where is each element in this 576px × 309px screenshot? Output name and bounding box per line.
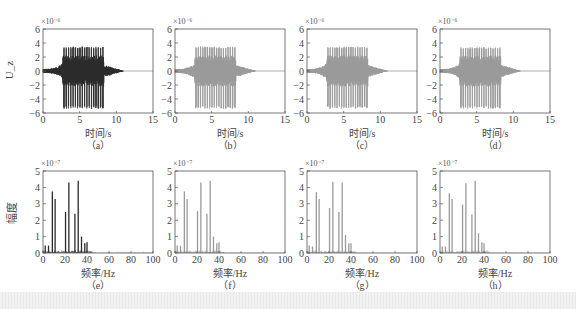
y-tick-label: 6 (432, 24, 437, 35)
chart-panel-a: 051015−6−4−20246×10⁻⁶ (43, 29, 153, 113)
y-tick-label: 4 (35, 38, 40, 49)
y-tick-label: 1 (299, 231, 304, 242)
y-tick-label: 1 (167, 231, 172, 242)
y-tick-label: −4 (293, 94, 304, 105)
x-tick-label: 80 (126, 254, 136, 265)
y-tick-label: 3 (432, 198, 437, 209)
y-exponent-label: ×10⁻⁷ (41, 159, 61, 168)
y-tick-label: 5 (35, 166, 40, 177)
y-tick-label: 2 (299, 215, 304, 226)
x-tick-label: 15 (412, 114, 422, 125)
y-tick-label: −4 (426, 94, 437, 105)
x-tick-label: 0 (305, 254, 310, 265)
y-tick-label: 2 (432, 52, 437, 63)
y-exponent-label: ×10⁻⁷ (438, 159, 458, 168)
chart-panel-e: 020406080100012345×10⁻⁷ (43, 171, 153, 253)
y-tick-label: 3 (299, 198, 304, 209)
x-tick-label: 60 (368, 254, 378, 265)
x-tick-label: 20 (457, 254, 467, 265)
chart-panel-h: 020406080100012345×10⁻⁷ (440, 171, 550, 253)
chart-panel-f: 020406080100012345×10⁻⁷ (175, 171, 285, 253)
y-tick-label: 0 (299, 66, 304, 77)
y-tick-label: 5 (167, 166, 172, 177)
x-tick-label: 0 (305, 114, 310, 125)
x-tick-label: 100 (278, 254, 293, 265)
y-axis-label: 幅度 (3, 202, 19, 224)
y-tick-label: 0 (432, 66, 437, 77)
x-tick-label: 40 (82, 254, 92, 265)
x-tick-label: 80 (523, 254, 533, 265)
panel-caption: （d） (465, 137, 525, 152)
y-tick-label: 3 (167, 198, 172, 209)
y-tick-label: 6 (299, 24, 304, 35)
x-tick-label: 5 (209, 114, 214, 125)
x-tick-label: 15 (280, 114, 290, 125)
y-tick-label: 0 (167, 66, 172, 77)
y-exponent-label: ×10⁻⁷ (173, 159, 193, 168)
y-tick-label: −6 (293, 108, 304, 119)
x-tick-label: 60 (104, 254, 114, 265)
y-tick-label: 6 (35, 24, 40, 35)
y-tick-label: 3 (35, 198, 40, 209)
panel-caption: （b） (200, 137, 260, 152)
panel-caption: （a） (68, 137, 128, 152)
x-tick-label: 15 (545, 114, 555, 125)
x-tick-label: 10 (508, 114, 518, 125)
panel-caption: （c） (332, 137, 392, 152)
y-exponent-label: ×10⁻⁷ (305, 159, 325, 168)
y-tick-label: 0 (35, 248, 40, 259)
y-tick-label: 1 (35, 231, 40, 242)
x-tick-label: 5 (341, 114, 346, 125)
x-tick-label: 60 (501, 254, 511, 265)
y-tick-label: 0 (432, 248, 437, 259)
x-tick-label: 60 (236, 254, 246, 265)
x-tick-label: 0 (41, 114, 46, 125)
x-tick-label: 40 (214, 254, 224, 265)
y-exponent-label: ×10⁻⁶ (173, 17, 193, 26)
y-axis-label: U_z (3, 61, 15, 79)
x-tick-label: 10 (111, 114, 121, 125)
x-tick-label: 0 (438, 254, 443, 265)
x-tick-label: 0 (438, 114, 443, 125)
x-tick-label: 80 (258, 254, 268, 265)
y-tick-label: −2 (426, 80, 437, 91)
y-tick-label: 4 (432, 38, 437, 49)
panel-caption: （e） (68, 277, 128, 292)
x-tick-label: 10 (375, 114, 385, 125)
y-tick-label: 2 (299, 52, 304, 63)
x-tick-label: 100 (543, 254, 558, 265)
panel-caption: （h） (465, 277, 525, 292)
y-tick-label: −6 (426, 108, 437, 119)
x-tick-label: 0 (173, 254, 178, 265)
chart-panel-b: 051015−6−4−20246×10⁻⁶ (175, 29, 285, 113)
y-tick-label: 4 (167, 38, 172, 49)
x-tick-label: 100 (146, 254, 161, 265)
y-tick-label: 2 (35, 52, 40, 63)
y-tick-label: 4 (299, 182, 304, 193)
chart-panel-d: 051015−6−4−20246×10⁻⁶ (440, 29, 550, 113)
y-tick-label: 1 (432, 231, 437, 242)
y-tick-label: 2 (432, 215, 437, 226)
y-tick-label: −2 (161, 80, 172, 91)
y-exponent-label: ×10⁻⁶ (305, 17, 325, 26)
y-exponent-label: ×10⁻⁶ (41, 17, 61, 26)
panel-caption: （f） (200, 277, 260, 292)
x-tick-label: 10 (243, 114, 253, 125)
x-tick-label: 5 (474, 114, 479, 125)
y-tick-label: 4 (299, 38, 304, 49)
y-tick-label: 0 (35, 66, 40, 77)
y-tick-label: −2 (29, 80, 40, 91)
y-tick-label: −4 (29, 94, 40, 105)
y-tick-label: 0 (167, 248, 172, 259)
y-tick-label: 5 (299, 166, 304, 177)
x-tick-label: 15 (148, 114, 158, 125)
bottom-band (0, 292, 576, 309)
panel-caption: （g） (332, 277, 392, 292)
y-tick-label: −6 (29, 108, 40, 119)
x-tick-label: 0 (41, 254, 46, 265)
y-tick-label: 2 (167, 52, 172, 63)
x-tick-label: 80 (390, 254, 400, 265)
y-tick-label: 5 (432, 166, 437, 177)
y-tick-label: 2 (35, 215, 40, 226)
x-tick-label: 40 (346, 254, 356, 265)
